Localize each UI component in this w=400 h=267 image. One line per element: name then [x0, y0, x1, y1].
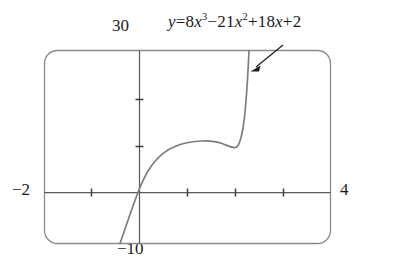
- graph-figure: y=8x3−21x2+18x+2 30 −2 4 −10: [0, 0, 400, 267]
- plot-canvas: [0, 0, 400, 267]
- viewing-window-frame: [45, 51, 331, 244]
- pointer-arrow: [251, 45, 284, 72]
- pointer-arrowhead: [251, 66, 261, 72]
